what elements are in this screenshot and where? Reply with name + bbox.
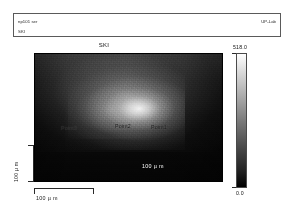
colorbar[interactable] (236, 53, 247, 188)
x-axis-tick-right (93, 188, 94, 194)
annotation-point3[interactable]: Point3 (61, 125, 77, 131)
colorbar-max-label: 518.0 (233, 44, 247, 50)
colorbar-min-label: 0.0 (236, 190, 244, 196)
inner-scale-bar-label: 100 µ m (142, 163, 164, 169)
y-axis-tick-top (28, 145, 34, 146)
heatmap-panel[interactable]: Point1 Point2 Point3 100 µ m (34, 53, 223, 182)
inner-scale-bar: 100 µ m (142, 163, 204, 173)
x-axis-label: 100 µ m (36, 195, 58, 201)
dataset-label: SKI (18, 26, 25, 37)
annotation-point1[interactable]: Point1 (151, 124, 167, 130)
y-axis-tick-bottom (28, 181, 34, 182)
plot-title: SKI (0, 42, 296, 48)
y-axis (28, 145, 34, 182)
header-row-bottom: SKI (14, 26, 280, 37)
x-axis-tick-left (34, 188, 35, 194)
y-axis-label: 100 µ m (13, 162, 19, 182)
heatmap-canvas[interactable]: Point1 Point2 Point3 100 µ m (34, 53, 223, 182)
x-axis (34, 188, 94, 194)
header-metadata-box: np101 ser UP-Lab SKI (13, 13, 281, 37)
colorbar-gradient[interactable] (236, 53, 247, 188)
x-axis-spine (34, 188, 94, 189)
colorbar-tick-bottom (232, 187, 236, 188)
annotation-point2[interactable]: Point2 (115, 123, 131, 129)
plot-title-text: SKI (99, 42, 110, 48)
y-axis-spine (33, 145, 34, 182)
colorbar-tick-top (232, 53, 236, 54)
